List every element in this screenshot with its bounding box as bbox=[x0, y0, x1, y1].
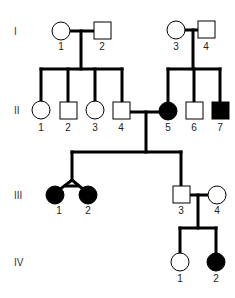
label-II-6: 6 bbox=[191, 122, 197, 133]
generation-label-IV: IV bbox=[14, 257, 24, 268]
individual-II-3 bbox=[86, 101, 104, 119]
individual-III-2-affected bbox=[79, 186, 97, 204]
label-III-2: 2 bbox=[85, 205, 91, 216]
label-I-4: 4 bbox=[203, 41, 209, 52]
individual-III-1-affected bbox=[46, 186, 64, 204]
label-II-3: 3 bbox=[92, 122, 98, 133]
individual-II-2 bbox=[60, 102, 77, 119]
individual-I-4 bbox=[198, 21, 215, 38]
individual-IV-2-affected bbox=[207, 253, 225, 271]
label-IV-1: 1 bbox=[177, 273, 183, 284]
generation-label-I: I bbox=[14, 26, 17, 37]
label-II-4: 4 bbox=[118, 122, 124, 133]
individual-II-5-affected bbox=[159, 102, 177, 120]
individual-I-1 bbox=[52, 22, 70, 40]
label-II-2: 2 bbox=[65, 122, 71, 133]
individual-II-1 bbox=[32, 101, 50, 119]
label-I-1: 1 bbox=[58, 41, 64, 52]
individual-II-4 bbox=[113, 102, 130, 119]
label-III-1: 1 bbox=[56, 205, 62, 216]
generation-label-II: II bbox=[14, 105, 20, 116]
individual-III-4 bbox=[208, 186, 226, 204]
label-III-4: 4 bbox=[214, 205, 220, 216]
label-II-7: 7 bbox=[217, 122, 223, 133]
label-I-3: 3 bbox=[173, 41, 179, 52]
generation-label-III: III bbox=[14, 190, 22, 201]
individual-I-2 bbox=[94, 22, 111, 39]
label-III-3: 3 bbox=[178, 205, 184, 216]
label-IV-2: 2 bbox=[213, 273, 219, 284]
pedigree-chart: I II III IV 1 2 3 bbox=[0, 0, 235, 298]
label-I-2: 2 bbox=[99, 41, 105, 52]
individual-III-3 bbox=[173, 186, 190, 203]
individual-I-3 bbox=[167, 21, 185, 39]
label-II-5: 5 bbox=[165, 122, 171, 133]
individual-II-7-affected bbox=[212, 102, 229, 119]
label-II-1: 1 bbox=[38, 122, 44, 133]
individual-II-6 bbox=[186, 102, 203, 119]
individual-IV-1 bbox=[171, 253, 189, 271]
